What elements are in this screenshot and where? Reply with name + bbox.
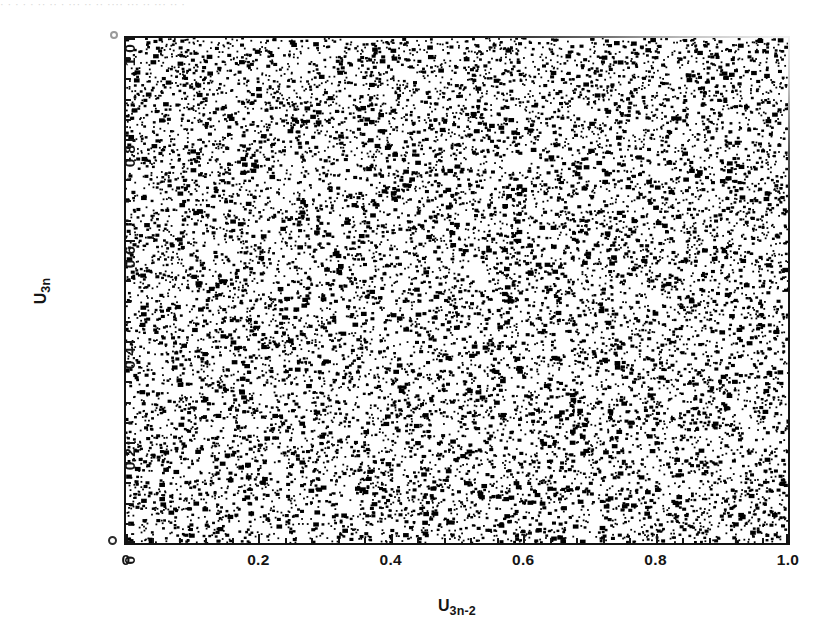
y-tick-mark — [126, 381, 131, 383]
y-tick-label: 0.4 — [121, 341, 139, 375]
x-tick-mark — [258, 534, 260, 543]
x-tick-mark — [179, 538, 181, 543]
x-tick-mark — [656, 534, 658, 543]
x-tick-mark — [470, 538, 472, 543]
x-tick-mark — [364, 538, 366, 543]
y-tick-label: 0.6 — [121, 240, 139, 274]
x-tick-mark — [417, 538, 419, 543]
y-tick-label: 0 — [121, 543, 139, 577]
x-tick-mark — [523, 534, 525, 543]
y-tick-mark — [126, 280, 131, 282]
y-tick-label: 0.2 — [121, 442, 139, 476]
x-tick-mark — [232, 538, 234, 543]
y-tick-mark — [126, 119, 131, 121]
x-tick-mark — [391, 534, 393, 543]
y-tick-mark — [126, 402, 131, 404]
x-tick-mark — [550, 538, 552, 543]
plot-frame — [124, 36, 790, 545]
y-tick-mark — [126, 503, 131, 505]
y-tick-mark — [126, 220, 131, 222]
y-tick-label: 1.0 — [121, 38, 139, 72]
x-axis-title-base: U — [438, 597, 450, 614]
y-tick-mark — [126, 78, 131, 80]
y-axis-title: U3n — [32, 278, 53, 305]
y-tick-mark — [126, 422, 131, 424]
x-tick-label: 1.0 — [777, 551, 799, 569]
x-tick-mark — [285, 538, 287, 543]
y-tick-mark — [126, 482, 131, 484]
x-tick-mark — [603, 538, 605, 543]
x-axis-title-subscript: 3n-2 — [450, 604, 477, 618]
y-tick-mark — [126, 200, 131, 202]
y-tick-mark — [126, 179, 131, 181]
scan-speck-artifact-top — [110, 31, 118, 39]
y-tick-mark — [126, 301, 131, 303]
x-tick-mark — [497, 538, 499, 543]
y-tick-mark — [126, 321, 131, 323]
x-tick-mark — [682, 538, 684, 543]
x-axis-title: U3n-2 — [438, 597, 476, 618]
x-tick-label: 0.6 — [512, 551, 534, 569]
y-axis-title-subscript: 3n — [39, 278, 53, 293]
x-tick-mark — [338, 538, 340, 543]
axis-line-top — [124, 36, 790, 38]
scatter-point-cloud — [126, 38, 788, 543]
x-tick-mark — [735, 538, 737, 543]
x-tick-mark — [709, 538, 711, 543]
y-tick-label: 0.8 — [121, 139, 139, 173]
x-tick-mark — [786, 534, 788, 543]
x-tick-mark — [576, 538, 578, 543]
x-tick-mark — [205, 538, 207, 543]
scatter-plot-figure: 00.20.40.60.81.0 00.20.40.60.81.0 U3n-2 … — [0, 0, 814, 642]
x-tick-mark — [762, 538, 764, 543]
x-tick-label: 0.8 — [644, 551, 666, 569]
x-tick-mark — [629, 538, 631, 543]
y-axis-title-base: U — [32, 293, 49, 305]
x-tick-mark — [444, 538, 446, 543]
axis-line-right — [788, 36, 790, 545]
x-tick-label: 0.2 — [247, 551, 269, 569]
y-tick-mark — [126, 523, 131, 525]
y-tick-mark — [126, 99, 131, 101]
x-tick-label: 0.4 — [380, 551, 402, 569]
scan-speck-artifact-origin — [108, 536, 117, 545]
axis-line-bottom — [124, 543, 790, 545]
x-tick-mark — [152, 538, 154, 543]
x-tick-mark — [311, 538, 313, 543]
